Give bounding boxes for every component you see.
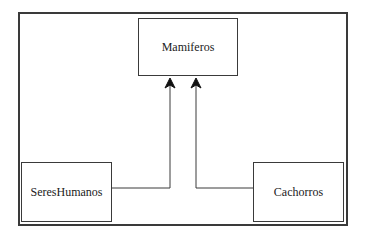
node-label: Cachorros: [274, 185, 323, 200]
node-label: Mamiferos: [162, 40, 215, 55]
node-sereshumanos[interactable]: SeresHumanos: [21, 162, 112, 222]
node-label: SeresHumanos: [31, 185, 103, 200]
edge-cachorros-mamiferos: [196, 80, 253, 188]
node-cachorros[interactable]: Cachorros: [253, 162, 344, 222]
node-mamiferos[interactable]: Mamiferos: [138, 18, 238, 76]
edge-sereshumanos-mamiferos: [112, 80, 170, 188]
